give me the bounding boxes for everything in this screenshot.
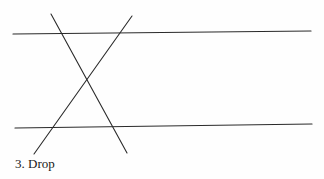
transversal-ascending (34, 16, 132, 154)
bottom-parallel-line (15, 124, 312, 128)
top-parallel-line (13, 31, 311, 34)
figure-caption: 3. Drop (15, 157, 55, 170)
diagram-canvas (0, 0, 324, 179)
transversal-descending (51, 14, 127, 153)
